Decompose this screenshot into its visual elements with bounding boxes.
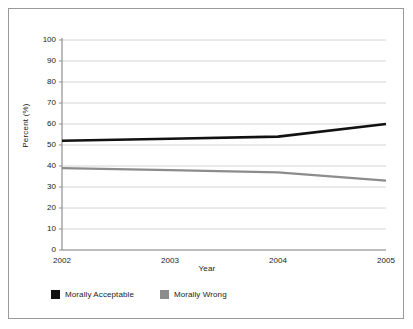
axis-lines-group <box>62 38 386 250</box>
y-tick-label-60: 60 <box>30 120 56 128</box>
series-line-morally-acceptable <box>62 124 386 141</box>
y-tick-label-30: 30 <box>30 183 56 191</box>
line-chart-svg <box>9 9 405 320</box>
gridlines-group <box>62 40 386 250</box>
data-series-group <box>62 124 386 181</box>
y-tick-label-90: 90 <box>30 57 56 65</box>
x-axis-title: Year <box>9 264 405 273</box>
y-tick-label-40: 40 <box>30 162 56 170</box>
y-tick-label-20: 20 <box>30 204 56 212</box>
legend-label: Morally Wrong <box>174 290 227 299</box>
legend-swatch-icon <box>160 290 169 299</box>
y-axis-title: Percent (%) <box>21 86 30 166</box>
chart-plot-area: 1009080706050403020100 2002200320042005 … <box>9 9 405 320</box>
series-line-morally-wrong <box>62 168 386 181</box>
y-tick-label-0: 0 <box>30 246 56 254</box>
y-tick-label-70: 70 <box>30 99 56 107</box>
chart-legend: Morally AcceptableMorally Wrong <box>51 290 227 299</box>
legend-item-morally-wrong: Morally Wrong <box>160 290 227 299</box>
y-tick-label-80: 80 <box>30 78 56 86</box>
y-tick-label-50: 50 <box>30 141 56 149</box>
chart-figure-frame: 1009080706050403020100 2002200320042005 … <box>8 8 404 319</box>
legend-label: Morally Acceptable <box>65 290 134 299</box>
legend-item-morally-acceptable: Morally Acceptable <box>51 290 134 299</box>
y-tick-label-100: 100 <box>30 36 56 44</box>
legend-swatch-icon <box>51 290 60 299</box>
y-tick-label-10: 10 <box>30 225 56 233</box>
